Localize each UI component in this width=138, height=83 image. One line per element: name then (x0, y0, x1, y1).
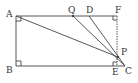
point-Q (72, 15, 74, 17)
segment-AP (16, 16, 118, 57)
segment-DC (89, 16, 125, 66)
point-P (117, 56, 119, 58)
label-F: F (115, 5, 121, 15)
label-B: B (6, 65, 13, 75)
label-P: P (121, 47, 127, 57)
label-A: A (5, 9, 13, 19)
label-C: C (125, 66, 132, 76)
label-Q: Q (68, 5, 75, 15)
right-angle-E (113, 62, 117, 66)
right-angle-B (16, 61, 21, 66)
label-D: D (86, 5, 93, 15)
label-E: E (112, 67, 119, 77)
geometry-diagram: A B Q D F P E C (0, 0, 138, 83)
right-angle-F (113, 16, 117, 20)
